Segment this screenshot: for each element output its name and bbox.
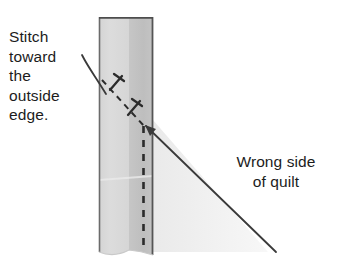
- quilt-diagram-figure: Stitch toward the outside edge. Wrong si…: [0, 0, 344, 266]
- stitch-instruction-label: Stitch toward the outside edge.: [9, 27, 60, 125]
- fabric-dark-band: [129, 17, 153, 255]
- wrong-side-label: Wrong side of quilt: [213, 152, 339, 191]
- fabric-light-band: [99, 17, 129, 255]
